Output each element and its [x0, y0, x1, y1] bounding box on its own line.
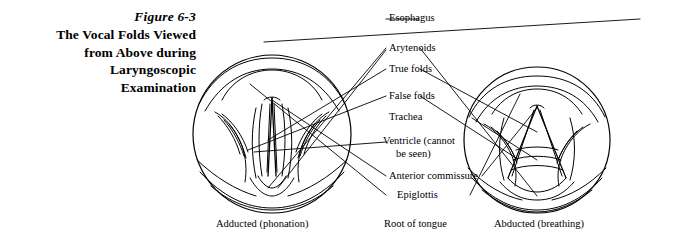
bottom-label-root-of-tongue: Root of tongue — [384, 218, 447, 229]
label-esophagus: Esophagus — [389, 12, 435, 23]
label-ventricle-line-1: Ventricle (cannot — [383, 135, 455, 146]
label-false-folds: False folds — [389, 90, 435, 101]
left-larynx-view — [193, 55, 351, 213]
label-arytenoids: Arytenoids — [389, 42, 436, 53]
label-trachea: Trachea — [389, 111, 422, 122]
bottom-label-adducted: Adducted (phonation) — [216, 218, 308, 229]
label-epiglottis: Epiglottis — [397, 189, 438, 200]
label-ventricle-line-2: be seen) — [396, 148, 431, 159]
label-anterior-commissure: Anterior commissure — [389, 170, 478, 181]
figure-6-3: Figure 6-3 The Vocal Folds Viewed from A… — [0, 0, 675, 240]
larynx-illustration — [0, 0, 675, 240]
right-larynx-view — [464, 67, 610, 213]
bottom-label-abducted: Abducted (breathing) — [494, 218, 584, 229]
leader-esophagus — [264, 19, 640, 42]
leader-anterior-commissure — [272, 100, 386, 176]
leader-arytenoids — [268, 48, 386, 188]
label-true-folds: True folds — [389, 63, 432, 74]
